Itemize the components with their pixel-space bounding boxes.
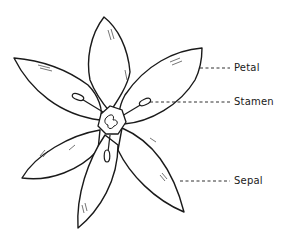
label-sepal: Sepal	[234, 176, 263, 186]
sepal-lower-right	[118, 128, 184, 212]
flower-diagram	[0, 0, 281, 240]
flower-illustration	[0, 0, 281, 240]
petal-upper-right	[120, 48, 202, 124]
label-petal: Petal	[234, 63, 260, 73]
label-stamen: Stamen	[234, 97, 274, 107]
